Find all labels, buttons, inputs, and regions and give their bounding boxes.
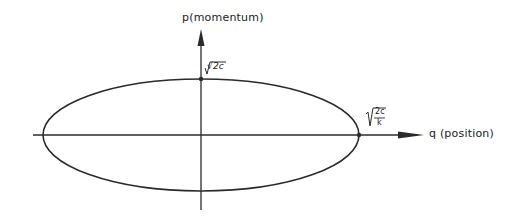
q-axis-arrowhead-icon [398, 132, 424, 139]
p-intercept-value: √2c [207, 61, 224, 71]
p-axis-label: p(momentum) [182, 11, 264, 24]
p-intercept-label: √2c [207, 61, 224, 71]
q-axis-label: q (position) [429, 127, 494, 140]
p-intercept-point [199, 77, 203, 81]
phase-space-diagram [0, 0, 514, 221]
q-intercept-numerator: 2c [375, 107, 385, 116]
p-axis-arrowhead-icon [198, 29, 205, 46]
q-intercept-point [357, 133, 361, 137]
q-intercept-denominator: k [377, 118, 382, 127]
